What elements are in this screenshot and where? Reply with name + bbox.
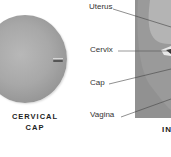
label-uterus: Uterus (89, 2, 113, 11)
inserted-caption-partial: IN (162, 125, 171, 134)
anatomy-diagram (0, 0, 171, 157)
label-cervix: Cervix (90, 45, 113, 54)
label-cap: Cap (90, 78, 105, 87)
uterus-shape (149, 0, 171, 44)
label-vagina: Vagina (90, 110, 114, 119)
